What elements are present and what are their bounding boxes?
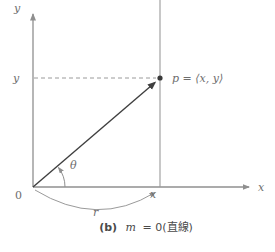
caption-rest: = 0(直線) (143, 220, 193, 234)
y-axis-label: y (13, 2, 21, 15)
theta-angle-arc (59, 168, 66, 187)
x-axis-label: x (258, 181, 265, 194)
origin-label: 0 (15, 189, 22, 202)
caption-index: (b) (99, 221, 117, 234)
caption-variable: m (126, 221, 136, 234)
point-p-label: p = ⟨x, y⟩ (172, 72, 223, 85)
x-coordinate-label: x (150, 188, 157, 201)
r-label: r (93, 206, 99, 219)
theta-label: θ (70, 159, 77, 172)
point-p-dot (157, 75, 162, 80)
y-coordinate-label: y (12, 72, 20, 85)
figure-canvas: y x y x 0 p = ⟨x, y⟩ θ r (b) m = 0(直線) (0, 0, 275, 252)
coordinate-diagram: y x y x 0 p = ⟨x, y⟩ θ r (b) m = 0(直線) (0, 0, 275, 252)
figure-caption: (b) m = 0(直線) (99, 220, 193, 234)
vector-line (33, 83, 155, 188)
